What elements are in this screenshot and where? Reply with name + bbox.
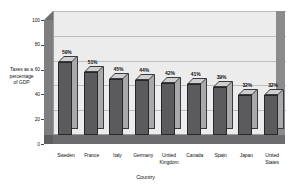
y-axis-tick-label: 0 [0, 142, 40, 147]
plot-area: 59%51%45%44%42%41%39%32%32% [44, 11, 285, 144]
bar-value-label: 32% [242, 83, 252, 88]
bar-side-face [278, 89, 284, 129]
bar-side-face [149, 74, 155, 129]
bar-side-face [252, 89, 258, 129]
x-axis-title: Country [0, 174, 291, 180]
bar-value-label: 45% [114, 67, 124, 72]
bar-front-face [264, 95, 278, 135]
bar-japan: 32% [238, 95, 252, 135]
y-axis-tick-mark [41, 144, 44, 145]
bar-side-face [201, 78, 207, 129]
bar-united-kingdom: 42% [161, 83, 175, 135]
bar-front-face [213, 87, 227, 135]
bar-front-face [109, 79, 123, 135]
y-axis-tick-label: 100 [0, 18, 40, 23]
bar-side-face [123, 73, 129, 129]
bar-germany: 44% [135, 80, 149, 135]
y-axis-title-line-3: of GDP [1, 79, 42, 86]
bar-front-face [238, 95, 252, 135]
bar-value-label: 39% [217, 75, 227, 80]
x-axis-categories: SwedenFranceItalyGermanyUnitedKingdomCan… [44, 152, 285, 174]
bar-side-face [175, 77, 181, 129]
bar-value-label: 59% [62, 50, 72, 55]
bar-italy: 45% [109, 79, 123, 135]
bar-front-face [135, 80, 149, 135]
bar-side-face [227, 81, 233, 129]
bar-canada: 41% [187, 84, 201, 135]
bar-value-label: 44% [139, 68, 149, 73]
bar-side-face [72, 56, 78, 129]
bar-value-label: 32% [268, 83, 278, 88]
bar-sweden: 59% [58, 62, 72, 135]
bar-value-label: 42% [165, 71, 175, 76]
x-axis-category-label: UnitedStates [255, 152, 289, 165]
bar-france: 51% [84, 72, 98, 135]
bar-spain: 39% [213, 87, 227, 135]
bar-value-label: 51% [88, 60, 98, 65]
bar-front-face [58, 62, 72, 135]
bar-chart: Taxes as a percentage of GDP 02040608010… [0, 0, 291, 188]
bar-united-states: 32% [264, 95, 278, 135]
bar-value-label: 41% [191, 72, 201, 77]
y-axis-tick-label: 20 [0, 117, 40, 122]
bar-front-face [84, 72, 98, 135]
bars-group: 59%51%45%44%42%41%39%32%32% [44, 11, 285, 144]
y-axis-tick-label: 60 [0, 67, 40, 72]
y-axis-tick-label: 40 [0, 92, 40, 97]
x-axis-category-line: Kingdom [152, 159, 186, 166]
x-axis-category-line: States [255, 159, 289, 166]
bar-front-face [187, 84, 201, 135]
bar-front-face [161, 83, 175, 135]
bar-side-face [98, 66, 104, 129]
y-axis-tick-label: 80 [0, 42, 40, 47]
